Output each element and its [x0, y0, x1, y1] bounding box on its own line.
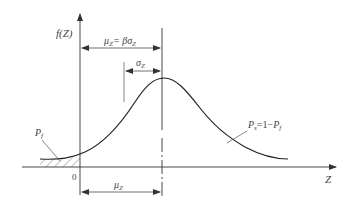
origin-label: 0	[72, 172, 77, 182]
sigma-label: σZ	[136, 57, 145, 70]
reliability-diagram: f(Z) Z 0 μZ= βσZ σZ μZ Pf Ps=1−Pf	[0, 0, 345, 208]
safety-prob-label: Ps=1−Pf	[247, 119, 282, 132]
mean-label: μZ	[113, 179, 123, 192]
diagram-svg: f(Z) Z 0 μZ= βσZ σZ μZ Pf Ps=1−Pf	[0, 0, 345, 208]
y-axis-label: f(Z)	[56, 27, 73, 40]
x-axis-label: Z	[325, 173, 332, 185]
failure-prob-label: Pf	[34, 127, 44, 140]
failure-prob-leader	[42, 140, 60, 161]
beta-sigma-label: μZ= βσZ	[103, 35, 136, 48]
